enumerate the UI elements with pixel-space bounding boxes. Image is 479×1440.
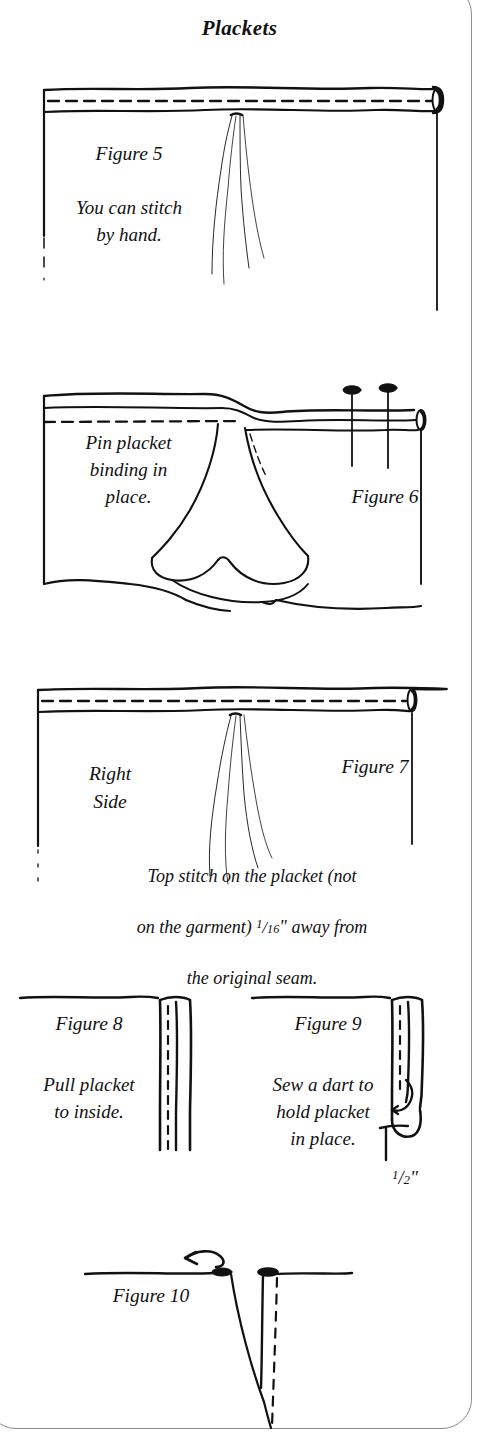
figure-7-caption-left: Right Side — [30, 760, 190, 815]
document-page: Plackets — [0, 0, 479, 1440]
figure-5-caption: You can stitch by hand. — [34, 195, 224, 249]
figure-9-caption: Sew a dart to hold placket in place. — [248, 1072, 398, 1153]
figure-7-instruction-line-2b: away from — [287, 917, 367, 937]
figure-6-label: Figure 6 — [310, 483, 460, 511]
figure-10-label: Figure 10 — [66, 1282, 236, 1310]
page-title: Plackets — [0, 16, 479, 41]
figure-9-label: Figure 9 — [258, 1010, 398, 1038]
figure-7-instruction-line-2a: on the garment) — [137, 917, 256, 937]
figure-8-caption: Pull placket to inside. — [14, 1072, 164, 1126]
figure-6-caption: Pin placket binding in place. — [36, 430, 221, 511]
figure-5-label: Figure 5 — [44, 140, 214, 168]
figure-7-label: Figure 7 — [300, 753, 450, 781]
measurement-one-sixteenth: 1/16" — [256, 917, 287, 937]
figure-7-instruction-line-1: Top stitch on the placket (not — [148, 866, 357, 886]
figure-8-label: Figure 8 — [24, 1010, 154, 1038]
